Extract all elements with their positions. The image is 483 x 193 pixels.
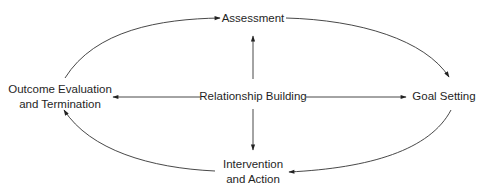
node-outcome-evaluation: Outcome Evaluation and Termination [8,82,112,112]
arrow-goal-to-intervention [289,110,451,172]
node-assessment-label: Assessment [222,11,285,26]
node-intervention-label-line1: Intervention [223,157,283,172]
arrow-assessment-to-goal [286,18,449,77]
node-outcome-label-line2: and Termination [8,97,112,112]
node-relationship-building: Relationship Building [199,89,306,104]
arrow-intervention-to-outcome [64,110,215,171]
node-intervention: Intervention and Action [223,157,283,187]
node-intervention-label-line2: and Action [223,172,283,187]
arrow-outcome-to-assessment [65,18,220,78]
node-outcome-label-line1: Outcome Evaluation [8,82,112,97]
node-assessment: Assessment [222,11,285,26]
node-relationship-building-label: Relationship Building [199,89,306,104]
node-goal-setting: Goal Setting [412,89,475,104]
node-goal-setting-label: Goal Setting [412,89,475,104]
